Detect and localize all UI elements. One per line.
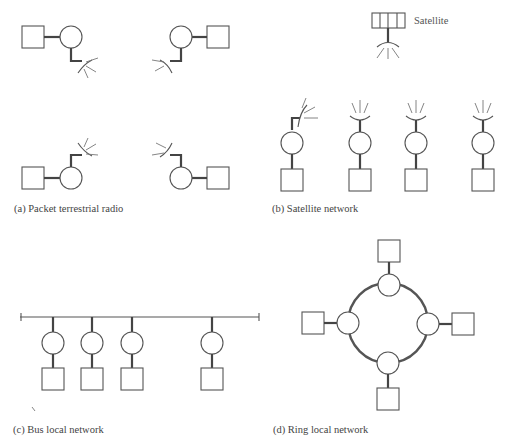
host-square [378, 240, 400, 262]
ring-station-left [302, 312, 359, 334]
antenna-icon [78, 138, 98, 156]
ground-station-1 [281, 98, 318, 191]
host-square [377, 388, 399, 410]
packet-radio-panel [22, 26, 229, 189]
node-circle [337, 312, 359, 334]
host-square [121, 368, 143, 390]
node-circle [472, 132, 494, 154]
node-circle [281, 132, 303, 154]
radio-station-4 [152, 143, 229, 189]
node-circle [417, 313, 439, 335]
radio-station-1 [22, 26, 98, 78]
bus-station-1 [42, 317, 64, 390]
ring-station-top [378, 240, 400, 296]
ring-network-panel [302, 240, 474, 410]
bus-station-3 [121, 317, 143, 390]
node-circle [121, 332, 143, 354]
caption-bus-network: (c) Bus local network [13, 424, 104, 435]
host-square [349, 169, 371, 191]
host-square [42, 368, 64, 390]
antenna-icon [350, 100, 370, 120]
host-square [281, 169, 303, 191]
ground-station-2 [349, 100, 371, 191]
node-circle [170, 26, 192, 48]
bus-network-panel [20, 313, 259, 411]
satellite-network-panel [281, 13, 494, 191]
node-circle [405, 132, 427, 154]
node-circle [377, 352, 399, 374]
host-square [22, 167, 44, 189]
node-circle [42, 332, 64, 354]
satellite-icon [372, 13, 405, 59]
host-square [472, 169, 494, 191]
ring-station-right [417, 313, 474, 335]
node-circle [378, 274, 400, 296]
antenna-icon [473, 100, 493, 120]
ring-station-bottom [377, 352, 399, 410]
node-circle [60, 26, 82, 48]
network-topologies-figure [0, 0, 509, 445]
node-circle [349, 132, 371, 154]
ground-station-4 [472, 100, 494, 191]
caption-packet-radio: (a) Packet terrestrial radio [14, 203, 123, 214]
bus-station-4 [201, 317, 223, 390]
host-square [81, 368, 103, 390]
caption-satellite-network: (b) Satellite network [272, 203, 358, 214]
antenna-icon [152, 60, 172, 73]
satellite-label: Satellite [414, 15, 448, 26]
stray-mark [32, 407, 35, 411]
host-square [207, 167, 229, 189]
host-square [405, 169, 427, 191]
host-square [302, 312, 324, 334]
ground-station-3 [405, 100, 427, 191]
antenna-icon [152, 143, 172, 157]
node-circle [201, 332, 223, 354]
radio-station-3 [22, 138, 98, 189]
node-circle [60, 167, 82, 189]
host-square [207, 26, 229, 48]
antenna-icon [406, 100, 426, 120]
node-circle [170, 167, 192, 189]
radio-station-2 [152, 26, 229, 73]
bus-station-2 [81, 317, 103, 390]
node-circle [81, 332, 103, 354]
host-square [201, 368, 223, 390]
antenna-icon [292, 98, 318, 130]
host-square [452, 313, 474, 335]
caption-ring-network: (d) Ring local network [273, 424, 368, 435]
host-square [22, 26, 44, 48]
